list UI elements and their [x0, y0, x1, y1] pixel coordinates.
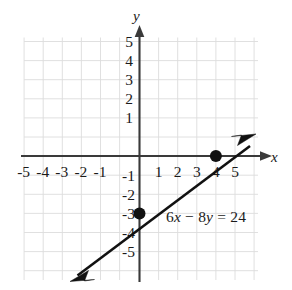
y-tick-label: 3: [125, 71, 133, 88]
y-tick-label: 4: [125, 52, 133, 69]
y-axis-label: y: [131, 8, 140, 24]
x-tick-label: 1: [155, 163, 163, 180]
equation-minus-operator: −: [181, 208, 198, 225]
x-tick-label: -4: [36, 163, 49, 180]
y-tick-label: -1: [122, 167, 135, 184]
equation-equals-operator: =: [213, 208, 230, 225]
coordinate-plane-figure: x y -5 -4 -3 -2 -1 1 2 3 4 5 5 4 3 2 1 -…: [0, 0, 292, 290]
x-tick-label: -5: [17, 163, 30, 180]
equation-coef-x: 6: [166, 208, 174, 225]
x-tick-label: 2: [174, 163, 182, 180]
y-tick-label: 5: [125, 33, 133, 50]
x-tick-label: -1: [94, 163, 107, 180]
grid-lines: [24, 38, 258, 281]
y-tick-label: 1: [125, 109, 133, 126]
x-tick-label: -2: [74, 163, 87, 180]
x-tick-label: 3: [193, 163, 201, 180]
y-axis: [135, 25, 145, 282]
x-tick-label: 5: [231, 163, 239, 180]
y-tick-label: -3: [122, 205, 135, 222]
equation-annotation: 6x − 8y = 24: [166, 208, 246, 226]
graph-svg: x y -5 -4 -3 -2 -1 1 2 3 4 5 5 4 3 2 1 -…: [0, 0, 292, 290]
y-tick-label: -2: [122, 186, 135, 203]
equation-var-x: x: [174, 208, 181, 225]
equation-coef-y: 8: [198, 208, 206, 225]
point-x-intercept: [210, 150, 222, 162]
equation-rhs: 24: [230, 208, 246, 225]
x-tick-label: -3: [55, 163, 68, 180]
y-tick-label: 2: [125, 90, 133, 107]
y-tick-labels: 5 4 3 2 1 -1 -2 -3 -4 -5: [122, 33, 135, 260]
x-axis-label: x: [270, 149, 278, 165]
point-y-intercept: [134, 207, 146, 219]
y-axis-arrowhead: [135, 25, 145, 37]
y-tick-label: -5: [122, 243, 135, 260]
